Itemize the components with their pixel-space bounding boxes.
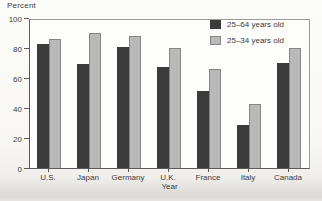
bar-us-series1	[49, 39, 61, 168]
y-tick-mark	[24, 18, 29, 19]
bar-uk-series1	[169, 48, 181, 168]
x-tick-mark	[48, 169, 49, 172]
y-tick-mark	[24, 138, 29, 139]
y-tick-mark	[24, 108, 29, 109]
bar-canada-series1	[289, 48, 301, 168]
y-tick-label: 40	[2, 105, 22, 114]
y-axis-title: Percent	[7, 1, 36, 10]
bar-us-series0	[37, 44, 49, 168]
x-tick-mark	[88, 169, 89, 172]
legend-label: 25–34 years old	[227, 36, 284, 45]
y-tick-label: 0	[2, 165, 22, 174]
bar-france-series0	[197, 91, 209, 168]
bar-germany-series0	[117, 47, 129, 168]
legend-item: 25–34 years old	[210, 36, 284, 45]
y-tick-label: 80	[2, 45, 22, 54]
bar-canada-series0	[277, 63, 289, 168]
y-tick-mark	[24, 168, 29, 169]
x-tick-mark	[288, 169, 289, 172]
x-tick-mark	[168, 169, 169, 172]
bar-japan-series0	[77, 64, 89, 168]
y-tick-label: 100	[2, 15, 22, 24]
x-tick-mark	[208, 169, 209, 172]
x-tick-mark	[128, 169, 129, 172]
y-tick-label: 20	[2, 135, 22, 144]
legend-item: 25–64 years old	[210, 20, 284, 29]
x-axis-title: Year	[140, 182, 200, 191]
y-tick-mark	[24, 78, 29, 79]
bar-germany-series1	[129, 36, 141, 168]
bar-italy-series1	[249, 104, 261, 168]
legend: 25–64 years old25–34 years old	[210, 20, 284, 52]
bar-italy-series0	[237, 125, 249, 168]
legend-swatch-icon	[210, 20, 221, 29]
y-tick-mark	[24, 48, 29, 49]
bar-france-series1	[209, 69, 221, 168]
x-category-label-canada: Canada	[265, 173, 311, 182]
bar-japan-series1	[89, 33, 101, 168]
bar-uk-series0	[157, 67, 169, 168]
y-tick-label: 60	[2, 75, 22, 84]
x-tick-mark	[248, 169, 249, 172]
legend-swatch-icon	[210, 36, 221, 45]
legend-label: 25–64 years old	[227, 20, 284, 29]
bar-chart-figure: Percent 020406080100U.S.JapanGermanyU.K.…	[0, 0, 322, 201]
